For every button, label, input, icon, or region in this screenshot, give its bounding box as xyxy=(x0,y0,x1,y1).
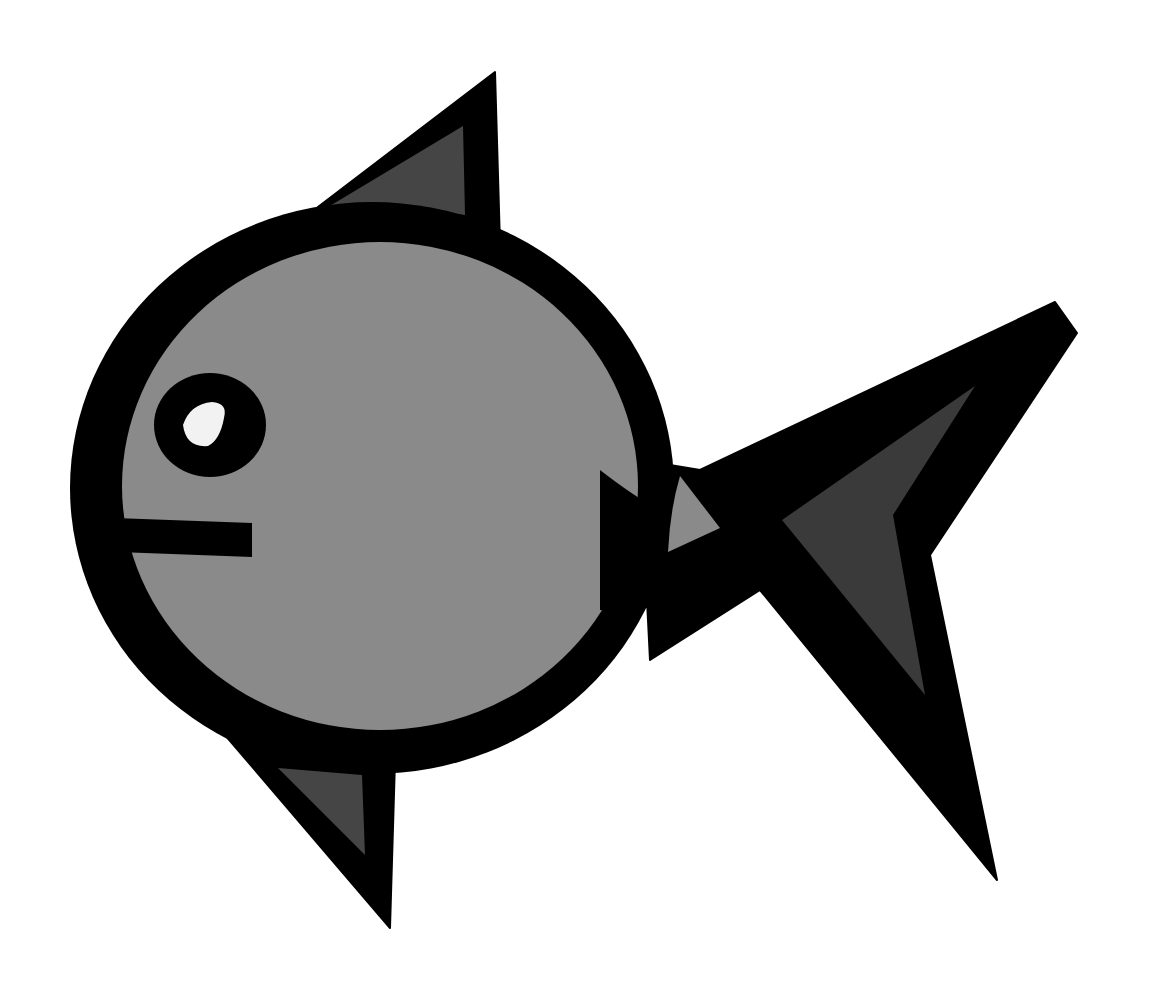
mouth-line xyxy=(115,518,252,557)
fish-illustration xyxy=(0,0,1159,985)
fish-svg xyxy=(0,0,1159,985)
eye xyxy=(154,373,266,477)
